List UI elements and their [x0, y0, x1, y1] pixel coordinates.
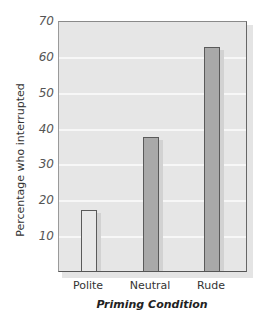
x-axis-label: Priming Condition — [96, 298, 207, 311]
bar-shadow — [159, 140, 163, 271]
x-tick-label: Neutral — [120, 279, 180, 292]
y-tick-label: 50 — [24, 86, 54, 100]
plot-area — [58, 21, 247, 272]
bar-chart: 10203040506070 PoliteNeutralRude Percent… — [0, 0, 261, 329]
x-tick-label: Rude — [181, 279, 241, 292]
bar-shadow — [97, 213, 101, 271]
bar-shadow — [220, 50, 224, 271]
y-tick-label: 60 — [24, 50, 54, 64]
y-tick-label: 30 — [24, 157, 54, 171]
bar-polite — [81, 210, 97, 271]
y-tick-label: 70 — [24, 14, 54, 28]
y-tick-label: 40 — [24, 122, 54, 136]
x-tick-label: Polite — [58, 279, 118, 292]
y-tick-label: 10 — [24, 229, 54, 243]
y-tick-label: 20 — [24, 193, 54, 207]
bar-neutral — [143, 137, 159, 271]
bar-rude — [204, 47, 220, 271]
y-axis-label: Percentage who interrupted — [14, 83, 27, 237]
